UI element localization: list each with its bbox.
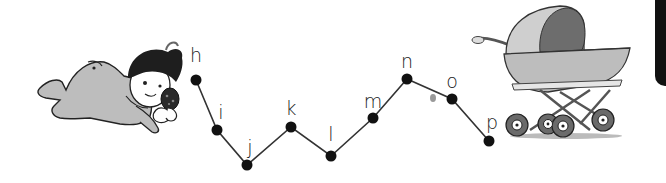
dot-h[interactable]	[191, 75, 202, 86]
letter-label-p: p	[486, 113, 498, 132]
letter-label-k: k	[285, 99, 296, 118]
worksheet-canvas: hijklmnop	[0, 0, 666, 183]
dot-m[interactable]	[368, 113, 379, 124]
dot-n[interactable]	[402, 74, 413, 85]
letter-label-n: n	[401, 52, 413, 71]
dot-i[interactable]	[212, 125, 223, 136]
dot-k[interactable]	[286, 122, 297, 133]
ink-blot	[430, 94, 436, 102]
letter-label-i: i	[218, 103, 223, 122]
letter-label-j: j	[247, 138, 252, 157]
dot-j[interactable]	[242, 160, 253, 171]
dot-p[interactable]	[484, 136, 495, 147]
dot-o[interactable]	[447, 94, 458, 105]
letter-label-m: m	[364, 92, 383, 111]
crawling-baby-illustration	[38, 43, 183, 133]
letter-label-o: o	[446, 72, 458, 91]
connecting-line	[196, 79, 489, 165]
dot-l[interactable]	[326, 151, 337, 162]
letter-label-l: l	[328, 125, 333, 144]
side-tab-marker	[655, 0, 666, 86]
illustration-layer	[0, 0, 666, 183]
letter-label-h: h	[190, 46, 202, 65]
